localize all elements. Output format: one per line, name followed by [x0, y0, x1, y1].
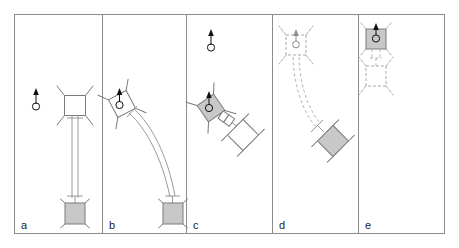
panel-label-e: e [365, 219, 371, 231]
panel-c: c [186, 29, 264, 231]
target-body [61, 199, 90, 228]
panel-a: a [21, 86, 93, 231]
panel-e: e [359, 23, 393, 231]
panel-label-c: c [193, 219, 199, 231]
tether [293, 57, 324, 132]
chaser-body [98, 79, 146, 129]
panel-label-d: d [279, 219, 285, 231]
panel-b: b [98, 79, 187, 231]
orientation-marker-icon [32, 88, 39, 110]
figure-container: a [0, 0, 459, 248]
orientation-marker-icon [207, 29, 214, 51]
panel-label-b: b [109, 219, 115, 231]
orientation-marker-icon [293, 29, 300, 48]
panel-d: d [279, 26, 354, 231]
target-body-ghost [359, 57, 393, 95]
panel-label-a: a [21, 219, 28, 231]
target-body [159, 199, 188, 228]
chaser-body [57, 86, 93, 125]
tether [370, 49, 382, 66]
tether [127, 106, 180, 203]
tether [67, 116, 83, 204]
figure-svg: a [0, 0, 459, 248]
